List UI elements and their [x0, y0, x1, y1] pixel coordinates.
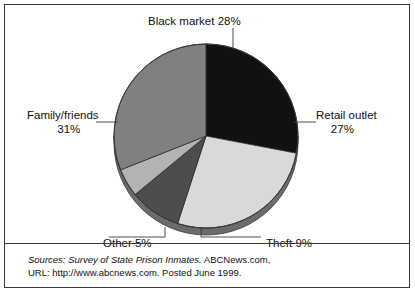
sources-line-2: URL: http://www.abcnews.com. Posted June… — [28, 266, 388, 279]
callout-retail-outlet-name: Retail outlet — [316, 109, 377, 121]
sources-citation-title: Sources: Survey of State Prison Inmates. — [28, 254, 202, 265]
callout-label-family-friends: Family/friends 31% — [27, 109, 99, 136]
callout-family-friends-percent: 31% — [27, 123, 99, 137]
pie-slices — [114, 44, 298, 228]
sources-citation-outlet: ABCNews.com, — [202, 254, 271, 265]
leader-line-other — [109, 227, 165, 237]
chart-plot-area: Black market 28% Retail outlet 27% Famil… — [5, 5, 409, 243]
callout-retail-outlet-percent: 27% — [316, 123, 377, 137]
pie-slice-black-market[interactable] — [206, 44, 298, 153]
callout-family-friends-name: Family/friends — [27, 109, 99, 121]
pie-chart-figure: Black market 28% Retail outlet 27% Famil… — [0, 0, 415, 293]
sources-line-1: Sources: Survey of State Prison Inmates.… — [28, 253, 388, 266]
sources-divider — [5, 243, 409, 244]
sources-note: Sources: Survey of State Prison Inmates.… — [28, 253, 388, 279]
callout-label-retail-outlet: Retail outlet 27% — [316, 109, 377, 136]
callout-label-black-market: Black market 28% — [148, 15, 241, 29]
